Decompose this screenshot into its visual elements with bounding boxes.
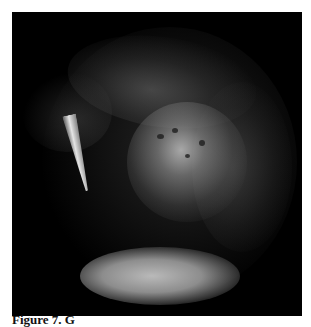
lesion-dark-spot	[157, 134, 164, 139]
left-haze	[22, 72, 112, 152]
central-lesion	[127, 102, 247, 222]
fluid-reflection	[80, 247, 240, 305]
instrument-tip	[62, 114, 92, 193]
right-mucosal-area	[192, 82, 292, 252]
endoscopic-figure-image	[12, 12, 302, 316]
lesion-dark-spot	[199, 140, 205, 146]
upper-mucosal-fold	[62, 24, 263, 140]
lesion-dark-spot	[172, 128, 178, 133]
figure-caption: Figure 7. G	[12, 313, 75, 326]
lesion-dark-spot	[185, 154, 190, 158]
